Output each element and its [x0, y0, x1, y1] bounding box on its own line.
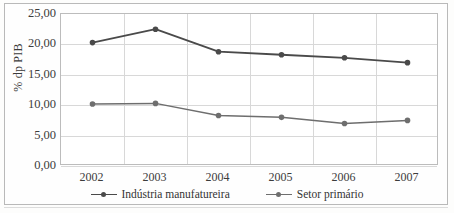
legend-item[interactable]: Indústria manufatureira	[91, 188, 230, 200]
legend-dot	[276, 192, 281, 197]
data-point-marker	[405, 118, 411, 124]
chart-figure: % dp PIB 0,005,0010,0015,0020,0025,00 20…	[0, 0, 454, 213]
data-point-marker	[279, 52, 285, 58]
legend-dot	[101, 192, 106, 197]
gridline-horizontal	[61, 166, 437, 167]
data-point-marker	[342, 55, 348, 61]
x-axis-tick-label: 2007	[395, 170, 419, 185]
legend-label: Indústria manufatureira	[122, 188, 230, 200]
data-point-marker	[90, 101, 96, 107]
legend-label: Setor primário	[297, 188, 364, 200]
x-axis-tick-label: 2002	[80, 170, 104, 185]
x-axis-tick-label: 2006	[332, 170, 356, 185]
data-point-marker	[216, 113, 222, 119]
series-2	[90, 101, 411, 127]
data-point-marker	[279, 115, 285, 121]
data-point-marker	[90, 40, 96, 46]
chart-legend: Indústria manufatureiraSetor primário	[0, 188, 454, 200]
legend-item[interactable]: Setor primário	[266, 188, 364, 200]
plot-area	[60, 13, 438, 165]
bottom-rule	[4, 207, 448, 208]
series-1	[90, 26, 411, 65]
series-line	[93, 103, 408, 123]
data-point-marker	[342, 121, 348, 127]
legend-marker-icon	[91, 190, 117, 199]
series-layer	[61, 14, 439, 166]
data-point-marker	[405, 60, 411, 66]
y-axis-title: % dp PIB	[11, 28, 26, 108]
x-axis-tick-label: 2005	[269, 170, 293, 185]
data-point-marker	[216, 49, 222, 55]
x-axis-tick-label: 2004	[206, 170, 230, 185]
x-axis-tick-label: 2003	[143, 170, 167, 185]
data-point-marker	[153, 101, 159, 107]
legend-marker-icon	[266, 190, 292, 199]
series-line	[93, 29, 408, 62]
data-point-marker	[153, 26, 159, 32]
